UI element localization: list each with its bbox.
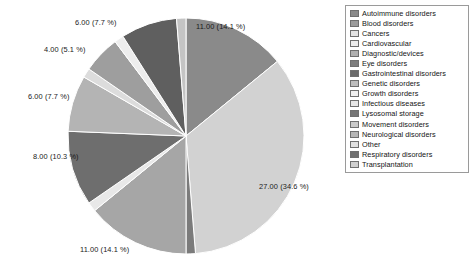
- legend-item[interactable]: Cardiovascular: [348, 38, 466, 48]
- pie-data-label: 27.00 (34.6 %): [259, 182, 309, 191]
- legend-item-label: Neurological disorders: [362, 130, 436, 139]
- legend-item-label: Genetic disorders: [362, 79, 420, 88]
- legend-item[interactable]: Diagnostic/devices: [348, 48, 466, 58]
- legend-swatch-icon: [350, 50, 359, 57]
- legend-item-label: Transplantation: [362, 160, 413, 169]
- legend-swatch-icon: [350, 141, 359, 148]
- legend-item-label: Diagnostic/devices: [362, 49, 424, 58]
- legend-swatch-icon: [350, 10, 359, 17]
- legend-item-label: Gastrointestinal disorders: [362, 69, 446, 78]
- legend-item[interactable]: Genetic disorders: [348, 79, 466, 89]
- legend: Autoimmune disordersBlood disordersCance…: [345, 5, 469, 173]
- pie-data-label: 6.00 (7.7 %): [28, 92, 69, 101]
- legend-swatch-icon: [350, 151, 359, 158]
- legend-item-label: Other: [362, 140, 381, 149]
- legend-item[interactable]: Infectious diseases: [348, 99, 466, 109]
- legend-item[interactable]: Respiratory disorders: [348, 149, 466, 159]
- pie-chart-area: 6.00 (7.7 %)11.00 (14.1 %)4.00 (5.1 %)6.…: [0, 0, 340, 270]
- legend-item-label: Growth disorders: [362, 89, 418, 98]
- pie-data-label: 6.00 (7.7 %): [75, 18, 116, 27]
- pie-data-label: 11.00 (14.1 %): [196, 22, 245, 31]
- legend-item-label: Blood disorders: [362, 19, 413, 28]
- legend-item[interactable]: Transplantation: [348, 159, 466, 169]
- legend-item-label: Respiratory disorders: [362, 150, 432, 159]
- legend-item[interactable]: Eye disorders: [348, 58, 466, 68]
- legend-item[interactable]: Cancers: [348, 28, 466, 38]
- legend-swatch-icon: [350, 131, 359, 138]
- legend-item[interactable]: Gastrointestinal disorders: [348, 69, 466, 79]
- legend-item[interactable]: Lysosomal storage: [348, 109, 466, 119]
- legend-swatch-icon: [350, 20, 359, 27]
- chart-root: 6.00 (7.7 %)11.00 (14.1 %)4.00 (5.1 %)6.…: [0, 0, 471, 270]
- legend-item-label: Cancers: [362, 29, 390, 38]
- pie-data-label: 4.00 (5.1 %): [44, 45, 85, 54]
- legend-swatch-icon: [350, 121, 359, 128]
- legend-item[interactable]: Neurological disorders: [348, 129, 466, 139]
- legend-item[interactable]: Other: [348, 139, 466, 149]
- pie-data-label: 8.00 (10.3 %): [33, 152, 79, 161]
- legend-swatch-icon: [350, 60, 359, 67]
- legend-swatch-icon: [350, 100, 359, 107]
- legend-item-label: Eye disorders: [362, 59, 407, 68]
- pie-slices-group: [68, 18, 304, 254]
- legend-item[interactable]: Blood disorders: [348, 18, 466, 28]
- legend-item[interactable]: Movement disorders: [348, 119, 466, 129]
- legend-swatch-icon: [350, 30, 359, 37]
- legend-item-label: Lysosomal storage: [362, 109, 424, 118]
- legend-item-label: Autoimmune disorders: [362, 9, 436, 18]
- legend-item-label: Cardiovascular: [362, 39, 411, 48]
- legend-swatch-icon: [350, 80, 359, 87]
- legend-item[interactable]: Growth disorders: [348, 89, 466, 99]
- legend-swatch-icon: [350, 70, 359, 77]
- legend-swatch-icon: [350, 90, 359, 97]
- legend-item-label: Movement disorders: [362, 120, 429, 129]
- pie-data-label: 11.00 (14.1 %): [80, 245, 129, 254]
- legend-swatch-icon: [350, 40, 359, 47]
- legend-item[interactable]: Autoimmune disorders: [348, 8, 466, 18]
- legend-swatch-icon: [350, 110, 359, 117]
- legend-item-label: Infectious diseases: [362, 99, 425, 108]
- legend-swatch-icon: [350, 161, 359, 168]
- pie-chart-svg: [0, 0, 340, 270]
